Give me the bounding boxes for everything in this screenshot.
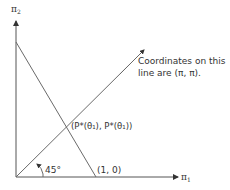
annotation-line-1: Coordinates on this	[138, 56, 226, 66]
x-axis-label: π1	[181, 172, 191, 183]
angle-arc	[37, 164, 43, 177]
diagram-canvas: π2 π1 45° (1, 0) (P*(θ₁), P*(θ₁)) Coordi…	[0, 0, 230, 190]
intersection-label: (P*(θ₁), P*(θ₁))	[71, 121, 132, 131]
y-axis-label: π2	[11, 4, 21, 15]
intercept-label: (1, 0)	[97, 165, 121, 175]
annotation-line-2: line are (π, π).	[138, 68, 201, 78]
diagonal-45-line	[16, 62, 132, 177]
angle-label: 45°	[45, 165, 61, 175]
